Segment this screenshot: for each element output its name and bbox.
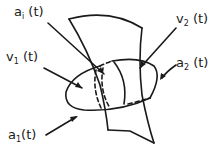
intersection-curve-solid <box>114 62 125 104</box>
surface-sheet <box>69 15 142 28</box>
label-a-2: a2 (t) <box>176 56 208 72</box>
label-a-i: ai (t) <box>14 5 44 21</box>
ellipse-back-dashed <box>100 61 112 66</box>
label-a-1: a1(t) <box>8 128 36 144</box>
label-v-1: v1 (t) <box>6 50 38 66</box>
surface-right-edge <box>140 28 154 143</box>
label-v-2: v2 (t) <box>176 12 208 28</box>
surface-bottom-edge <box>108 130 154 143</box>
leader-v-2 <box>140 28 176 68</box>
arrowhead-a-1 <box>70 116 78 122</box>
ellipse-back-right <box>112 59 157 98</box>
